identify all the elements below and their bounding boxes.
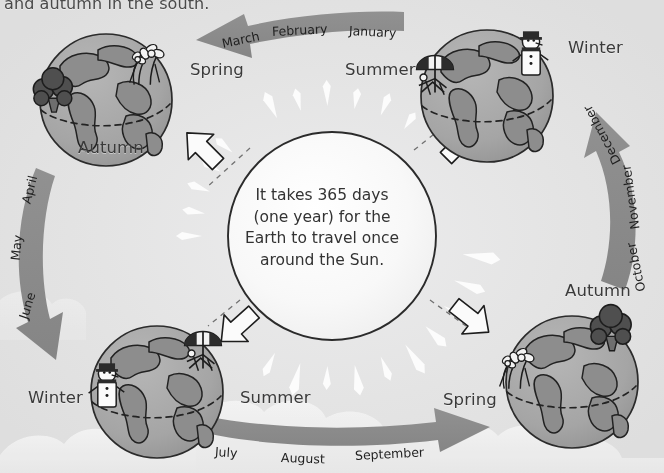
season-label-autumn-4: Autumn	[565, 281, 631, 300]
month-label-january: January	[349, 23, 397, 40]
center-text-line-3: Earth to travel once	[214, 228, 430, 250]
globe-top-right	[417, 30, 553, 162]
seasons-diagram: and autumn in the south. It takes 365 da…	[0, 0, 664, 473]
tree-icon	[590, 305, 631, 351]
season-label-spring-5: Spring	[443, 390, 497, 409]
sun-center-text: It takes 365 days (one year) for the Ear…	[214, 185, 430, 271]
season-label-spring-0: Spring	[190, 60, 244, 79]
season-label-summer-2: Summer	[345, 60, 416, 79]
month-label-february: February	[272, 21, 328, 39]
center-text-line-2: (one year) for the	[214, 207, 430, 229]
month-label-august: August	[281, 450, 325, 467]
season-label-summer-7: Summer	[240, 388, 311, 407]
month-label-may: May	[8, 234, 26, 261]
globe-bottom-left	[89, 326, 223, 458]
top-caption: and autumn in the south.	[4, 0, 210, 13]
month-label-july: July	[214, 444, 237, 461]
season-label-autumn-1: Autumn	[78, 138, 144, 157]
season-label-winter-3: Winter	[568, 38, 623, 57]
center-text-line-4: around the Sun.	[214, 250, 430, 272]
season-label-winter-6: Winter	[28, 388, 83, 407]
center-text-line-1: It takes 365 days	[214, 185, 430, 207]
